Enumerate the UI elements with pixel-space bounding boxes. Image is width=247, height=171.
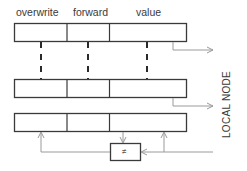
diagram-canvas bbox=[0, 0, 247, 171]
record-row-3 bbox=[15, 114, 187, 132]
output-arrow-row-1 bbox=[173, 42, 213, 50]
record-row-1 bbox=[15, 24, 187, 42]
record-row-2 bbox=[15, 80, 187, 98]
not-equal-symbol: ≠ bbox=[122, 148, 126, 156]
output-arrow-row-2 bbox=[173, 98, 213, 106]
dashed-links bbox=[41, 42, 147, 79]
local-node-label: LOCAL NODE bbox=[222, 71, 232, 138]
comparator-to-overwrite-arrow bbox=[41, 132, 110, 152]
